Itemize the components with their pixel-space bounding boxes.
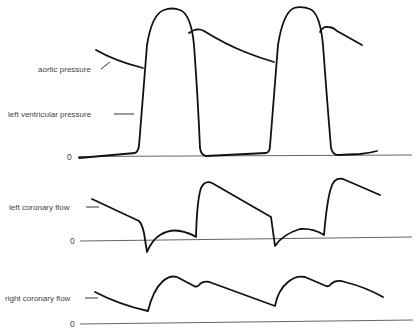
cardiac-cycle-diagram: 0 aortic pressure left ventricular press… [0, 0, 417, 332]
aortic-pressure-trace-3 [320, 27, 362, 45]
aortic-pressure-label: aortic pressure [38, 65, 91, 74]
aortic-pressure-trace-2 [189, 29, 274, 62]
pressure-zero-label: 0 [67, 152, 72, 162]
lv-pressure-label: left ventricular pressure [8, 110, 92, 119]
right-coronary-flow-trace [95, 277, 383, 312]
left-coronary-panel: 0 left coronary flow [9, 179, 412, 252]
left-coronary-baseline [80, 237, 412, 241]
left-coronary-flow-label: left coronary flow [9, 203, 70, 212]
pressure-baseline [78, 155, 412, 157]
aortic-pressure-trace-1 [96, 50, 143, 68]
aortic-pressure-leader [101, 62, 110, 69]
lv-pressure-trace [79, 7, 377, 158]
right-coronary-baseline [80, 320, 413, 324]
left-coronary-flow-trace [92, 179, 380, 252]
left-coronary-zero-label: 0 [70, 236, 75, 246]
pressure-panel: 0 aortic pressure left ventricular press… [8, 7, 412, 162]
right-coronary-flow-label: right coronary flow [5, 294, 71, 303]
right-coronary-zero-label: 0 [70, 319, 75, 329]
right-coronary-panel: 0 right coronary flow [5, 277, 413, 330]
